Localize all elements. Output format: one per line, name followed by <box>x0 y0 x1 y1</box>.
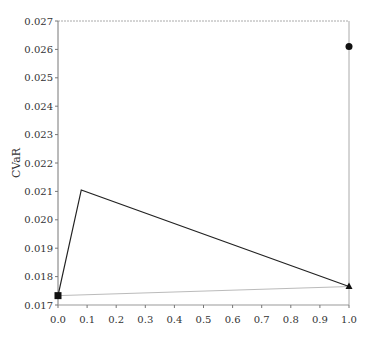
y-axis-ticks: 0.0170.0180.0190.0200.0210.0220.0230.024… <box>24 16 58 311</box>
data-series <box>55 43 353 299</box>
x-axis-ticks: 0.00.10.20.30.40.50.60.70.80.91.0 <box>50 305 357 325</box>
x-tick-label: 0.6 <box>225 314 241 325</box>
reference-line <box>58 287 349 296</box>
x-tick-label: 1.0 <box>341 314 357 325</box>
circle-marker <box>346 43 353 50</box>
y-tick-label: 0.018 <box>24 271 53 282</box>
y-tick-label: 0.023 <box>24 129 53 140</box>
y-tick-label: 0.027 <box>24 16 53 27</box>
y-tick-label: 0.020 <box>24 214 53 225</box>
y-tick-label: 0.025 <box>24 72 53 83</box>
y-axis-title: CVaR <box>10 147 23 178</box>
square-marker <box>55 292 62 299</box>
x-tick-label: 0.8 <box>283 314 299 325</box>
x-tick-label: 0.4 <box>166 314 182 325</box>
plot-frame <box>58 21 349 305</box>
y-tick-label: 0.021 <box>24 186 53 197</box>
y-tick-label: 0.026 <box>24 44 53 55</box>
x-tick-label: 0.7 <box>254 314 270 325</box>
y-tick-label: 0.019 <box>24 243 53 254</box>
y-tick-label: 0.024 <box>24 101 53 112</box>
cvar-chart: 0.0170.0180.0190.0200.0210.0220.0230.024… <box>0 0 373 339</box>
x-tick-label: 0.0 <box>50 314 66 325</box>
x-tick-label: 0.9 <box>312 314 328 325</box>
x-tick-label: 0.1 <box>79 314 95 325</box>
y-tick-label: 0.022 <box>24 158 53 169</box>
y-tick-label: 0.017 <box>24 300 53 311</box>
x-tick-label: 0.5 <box>196 314 212 325</box>
x-tick-label: 0.3 <box>137 314 153 325</box>
x-tick-label: 0.2 <box>108 314 124 325</box>
frontier-line <box>58 190 349 296</box>
